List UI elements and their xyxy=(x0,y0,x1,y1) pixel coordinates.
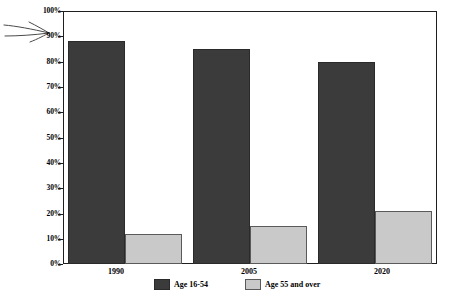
legend-swatch-icon xyxy=(154,279,170,290)
legend-swatch-icon xyxy=(245,279,261,290)
y-tick-label: 20% xyxy=(33,210,61,218)
legend-label: Age 16-54 xyxy=(174,279,208,290)
y-tick-label: 0% xyxy=(33,260,61,268)
y-tick-label: 100% xyxy=(33,7,61,15)
bar-chart: Percentage of Total Labor Force 100% 90%… xyxy=(0,0,449,297)
y-tick-label: 60% xyxy=(33,108,61,116)
bar-age-16-54-2005 xyxy=(193,49,250,264)
bar-age-55-and-over-2020 xyxy=(375,211,432,264)
y-axis-tick-labels: 100% 90% 80% 70% 60% 50% 40% 30% 20% 10%… xyxy=(33,0,61,297)
y-tick-label: 10% xyxy=(33,235,61,243)
y-tick-label: 40% xyxy=(33,159,61,167)
y-tick-label: 50% xyxy=(33,134,61,142)
legend-label: Age 55 and over xyxy=(265,279,320,290)
bar-age-55-and-over-1990 xyxy=(125,234,182,264)
bar-age-55-and-over-2005 xyxy=(250,226,307,264)
y-tick-label: 30% xyxy=(33,184,61,192)
x-tick-label: 1990 xyxy=(86,267,146,277)
bar-age-16-54-1990 xyxy=(68,41,125,264)
legend-entry-age-16-54: Age 16-54 xyxy=(154,279,208,290)
chart-legend: Age 16-54 Age 55 and over xyxy=(0,279,449,297)
x-tick-label: 2020 xyxy=(352,267,412,277)
plot-area xyxy=(63,11,437,264)
legend-entry-age-55-and-over: Age 55 and over xyxy=(245,279,320,290)
x-tick-label: 2005 xyxy=(219,267,279,277)
y-tick-mark xyxy=(58,264,63,265)
y-tick-label: 70% xyxy=(33,83,61,91)
bar-age-16-54-2020 xyxy=(318,62,375,264)
y-tick-label: 90% xyxy=(33,32,61,40)
y-tick-label: 80% xyxy=(33,58,61,66)
